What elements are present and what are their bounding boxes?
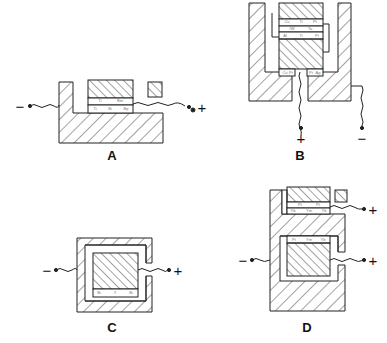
figure-b-annotation: Cu <box>284 20 289 24</box>
figure-b-annotation: Ta <box>308 27 312 31</box>
figure-a-annotation: Bp <box>124 107 129 111</box>
figure-b-annotation: Pt <box>309 71 313 75</box>
figure-b-annotation: Pt <box>315 34 319 38</box>
figure-c-pos-sign: + <box>174 263 183 278</box>
figure-a-top-block <box>88 80 133 98</box>
figure-b-annotation: Ag <box>316 71 321 75</box>
figure-b-annotation: Al <box>283 34 287 38</box>
figure-d-clamp <box>335 190 347 202</box>
figure-a-wire-pos <box>133 103 185 107</box>
figure-d-annotation: Pt <box>292 238 296 242</box>
figure-c-core <box>93 253 138 289</box>
figure-d-annotation: Ym <box>306 209 312 213</box>
figure-c-wire-pos <box>138 269 168 272</box>
figure-d-neg-sign: − <box>239 253 248 268</box>
figure-b-label: B <box>295 148 304 163</box>
figure-c <box>54 238 170 312</box>
figure-a-clamp <box>148 82 162 97</box>
figure-b-pos-sign: + <box>297 131 306 146</box>
figure-d-core <box>287 243 330 276</box>
figure-b-annotation: Cu <box>282 71 287 75</box>
figure-b-top-block <box>279 3 323 19</box>
figure-a-annotation: Bi <box>108 107 112 111</box>
figure-c-label: C <box>107 320 116 335</box>
figure-d-annotation: Pt <box>316 203 320 207</box>
figure-b <box>249 3 364 136</box>
figure-b-annotation: Ti <box>299 20 302 24</box>
figure-a-annotation: Ti <box>98 99 101 103</box>
diagram-canvas <box>0 0 387 343</box>
figure-d-annotation: Yb <box>321 238 326 242</box>
figure-c-annotation: Bi <box>97 291 101 295</box>
figure-c-annotation: Bi <box>129 291 133 295</box>
figure-a-label: A <box>107 148 116 163</box>
figure-a-pos-sign: + <box>198 100 207 115</box>
figure-d-label: D <box>302 320 311 335</box>
figure-d-wire-mid <box>330 259 364 262</box>
figure-d-top-block <box>287 187 330 202</box>
figure-a-annotation: Bm <box>117 99 123 103</box>
figure-b-annotation: Pt <box>289 71 293 75</box>
figure-c-annotation: Y <box>114 291 117 295</box>
figure-a-neg-sign: − <box>16 99 25 114</box>
figure-b-annotation: IW <box>290 27 295 31</box>
figure-d-annotation: Pt <box>298 203 302 207</box>
figure-d-annotation: Yb <box>322 209 327 213</box>
figure-b-annotation: Ti <box>299 34 302 38</box>
figure-c-wire-neg <box>56 269 77 272</box>
figure-a <box>28 80 195 143</box>
figure-d-annotation: Ym <box>306 238 312 242</box>
figure-d-pos-mid-sign: + <box>369 253 378 268</box>
figure-b-annotation: Pt <box>313 20 317 24</box>
figure-b-wire-neg <box>351 86 363 126</box>
figure-a-annotation: Ti <box>93 107 96 111</box>
figure-d-annotation: Yb <box>291 209 296 213</box>
figure-d <box>250 187 365 311</box>
figure-a-layer-1 <box>88 98 133 105</box>
figure-d-pos-top-sign: + <box>369 202 378 217</box>
figure-b-neg-sign: − <box>358 131 367 146</box>
figure-d-wire-top <box>330 206 364 210</box>
figure-b-lower-block <box>279 39 323 69</box>
figure-a-wire-neg <box>30 105 59 108</box>
figure-d-wire-neg <box>252 259 270 262</box>
figure-c-neg-sign: − <box>43 263 52 278</box>
